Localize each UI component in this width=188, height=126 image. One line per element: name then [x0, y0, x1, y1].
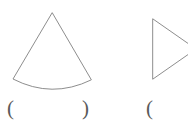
- circular-sector-shape: [13, 13, 91, 89]
- answer-blank-a-open-paren: (: [7, 98, 14, 119]
- worksheet-page: ( ) (: [0, 0, 188, 126]
- answer-blank-a-close-paren: ): [82, 98, 89, 119]
- right-pointing-triangle-shape: [153, 19, 188, 79]
- answer-blank-b-open-paren: (: [146, 98, 153, 119]
- geometry-figures: [0, 0, 188, 126]
